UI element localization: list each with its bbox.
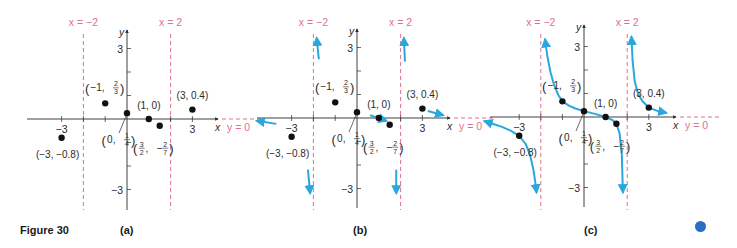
svg-text:2: 2 <box>114 80 118 87</box>
x-tick-label: −3 <box>513 121 525 133</box>
svg-text:): ) <box>120 81 124 96</box>
data-point <box>516 133 522 139</box>
point-label: (3, 0.4) <box>177 90 209 101</box>
x-tick-label: 3 <box>646 121 652 133</box>
y-tick-label: −3 <box>111 184 123 196</box>
behavior-arrow <box>404 38 405 62</box>
point-label: (3, 0.4) <box>407 89 439 100</box>
y-axis-label: y <box>575 21 582 33</box>
x-tick-label: −3 <box>286 122 298 134</box>
data-point <box>354 109 360 115</box>
svg-text:3: 3 <box>114 88 118 95</box>
data-point <box>288 134 294 140</box>
x-tick-label: −3 <box>56 123 68 135</box>
data-point <box>419 105 425 111</box>
data-point <box>102 100 108 106</box>
svg-text:−1: −1 <box>91 82 103 93</box>
data-point <box>387 122 393 128</box>
svg-text:−1: −1 <box>548 80 560 91</box>
point-label: (32, −27) <box>363 140 404 156</box>
x-axis-label: x <box>672 119 679 131</box>
y-tick-label: 3 <box>347 42 353 54</box>
asymptote-label: y = 0 <box>459 120 482 132</box>
panel-c-caption: (c) <box>584 224 597 236</box>
svg-text:1: 1 <box>125 132 129 139</box>
svg-text:−1: −1 <box>321 81 333 92</box>
point-label: (−1, 23) <box>315 79 354 95</box>
svg-text:7: 7 <box>393 148 397 155</box>
point-label: (3, 0.4) <box>633 88 665 99</box>
svg-text:3: 3 <box>571 86 575 93</box>
panel-c-plot: x = −2x = 2y = 0xy−333−3(−3, −0.8)(−1, 2… <box>485 16 720 210</box>
svg-text:,: , <box>102 82 105 93</box>
data-point <box>124 110 130 116</box>
svg-text:(: ( <box>332 132 337 147</box>
y-axis-label: y <box>118 26 125 38</box>
asymptote-label: x = 2 <box>616 16 639 28</box>
svg-text:3: 3 <box>344 87 348 94</box>
svg-text:,: , <box>332 81 335 92</box>
data-point <box>581 108 587 114</box>
asymptote-label: x = −2 <box>526 16 555 28</box>
svg-text:(: ( <box>363 140 368 155</box>
svg-text:(: ( <box>315 80 320 95</box>
svg-text:1: 1 <box>355 131 359 138</box>
point-label: (1, 0) <box>594 98 617 109</box>
data-point <box>646 104 652 110</box>
data-point <box>58 135 64 141</box>
asymptote-label: x = 2 <box>159 16 182 28</box>
svg-text:2: 2 <box>596 147 600 154</box>
data-point <box>559 98 565 104</box>
svg-text:−: − <box>614 141 620 152</box>
svg-text:−: − <box>157 143 163 154</box>
blue-dot-icon <box>695 221 706 232</box>
svg-text:7: 7 <box>620 147 624 154</box>
point-label: (1, 0) <box>137 100 160 111</box>
behavior-arrow <box>257 121 277 124</box>
point-label: (0, 14) <box>559 130 593 146</box>
asymptote-label: x = −2 <box>299 16 328 28</box>
svg-text:): ) <box>626 139 630 154</box>
panel-b-plot: x = −2x = 2y = 0xy−333−3(−3, −0.8)(−1, 2… <box>257 16 494 210</box>
svg-text:,: , <box>113 134 116 145</box>
svg-text:): ) <box>350 80 354 95</box>
asymptote-label: y = 0 <box>685 119 708 131</box>
point-label: (−3, −0.8) <box>36 149 79 160</box>
point-label: (−3, −0.8) <box>494 147 537 158</box>
svg-text:): ) <box>169 141 173 156</box>
point-label: (32, −27) <box>590 139 631 155</box>
svg-text:4: 4 <box>582 138 586 145</box>
point-label: (−1, 23) <box>542 78 581 94</box>
svg-text:(: ( <box>590 139 595 154</box>
svg-text:2: 2 <box>140 149 144 156</box>
svg-text:2: 2 <box>393 140 397 147</box>
data-point <box>146 116 152 122</box>
svg-text:2: 2 <box>620 139 624 146</box>
svg-text:4: 4 <box>355 139 359 146</box>
data-point <box>613 121 619 127</box>
svg-text:(: ( <box>85 81 90 96</box>
asymptote-label: x = −2 <box>69 16 98 28</box>
svg-text:7: 7 <box>163 149 167 156</box>
point-label: (32, −27) <box>133 141 174 157</box>
svg-text:,: , <box>559 80 562 91</box>
svg-text:2: 2 <box>370 148 374 155</box>
asymptote-label: y = 0 <box>227 121 250 133</box>
panel-a-caption: (a) <box>120 224 133 236</box>
svg-text:(: ( <box>559 131 564 146</box>
data-point <box>157 123 163 129</box>
svg-text:2: 2 <box>163 141 167 148</box>
svg-text:4: 4 <box>125 140 129 147</box>
point-label: (0, 14) <box>332 131 366 147</box>
svg-text:3: 3 <box>596 139 600 146</box>
point-label: (0, 14) <box>102 132 136 148</box>
svg-text:): ) <box>399 140 403 155</box>
svg-text:(: ( <box>102 133 107 148</box>
point-label: (−3, −0.8) <box>266 148 309 159</box>
svg-text:): ) <box>577 79 581 94</box>
svg-text:,: , <box>570 132 573 143</box>
rational-function-plots: x = −2x = 2y = 0xy−333−3(−3, −0.8)(−1, 2… <box>0 0 737 248</box>
svg-text:3: 3 <box>140 141 144 148</box>
behavior-arrow <box>317 38 319 59</box>
svg-text:(: ( <box>542 79 547 94</box>
